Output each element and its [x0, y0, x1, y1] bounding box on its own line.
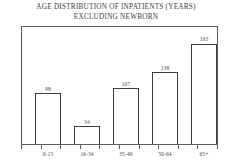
x-tick-9	[197, 145, 198, 149]
bar-slot-3: 138	[152, 27, 178, 144]
chart-title-line-2: EXCLUDING NEWBORN	[0, 12, 232, 22]
x-tick-1	[41, 145, 42, 149]
x-tick-8	[178, 145, 179, 149]
bar-slot-0: 98	[35, 27, 61, 144]
x-category-label-2: 35-49	[119, 151, 133, 157]
x-axis-ticks	[21, 145, 218, 150]
x-tick-5	[119, 145, 120, 149]
bar-0	[35, 93, 61, 144]
x-tick-10	[217, 145, 218, 149]
x-tick-7	[158, 145, 159, 149]
bar-4	[191, 44, 217, 144]
x-category-label-3: 50-64	[158, 151, 172, 157]
bar-slot-4: 193	[191, 27, 217, 144]
bar-value-label-2: 107	[122, 81, 131, 87]
bars-container: 98 34 107 138 193	[22, 27, 217, 144]
bar-value-label-3: 138	[161, 65, 170, 71]
x-tick-0	[21, 145, 22, 149]
bar-slot-1: 34	[74, 27, 100, 144]
x-category-label-4: 65+	[199, 151, 208, 157]
x-tick-4	[99, 145, 100, 149]
x-tick-3	[80, 145, 81, 149]
x-category-label-0: 0-15	[43, 151, 54, 157]
bar-1	[74, 126, 100, 144]
bar-chart-figure: AGE DISTRIBUTION OF INPATIENTS (YEARS) E…	[0, 0, 232, 166]
x-axis-category-labels: 0-15 16-34 35-49 50-64 65+	[21, 151, 218, 163]
bar-slot-2: 107	[113, 27, 139, 144]
chart-title: AGE DISTRIBUTION OF INPATIENTS (YEARS) E…	[0, 2, 232, 22]
bar-2	[113, 88, 139, 144]
bar-value-label-0: 98	[45, 86, 51, 92]
bar-value-label-1: 34	[84, 119, 90, 125]
bar-3	[152, 72, 178, 144]
x-tick-6	[139, 145, 140, 149]
chart-title-line-1: AGE DISTRIBUTION OF INPATIENTS (YEARS)	[0, 2, 232, 12]
x-category-label-1: 16-34	[80, 151, 94, 157]
bar-value-label-4: 193	[200, 36, 209, 42]
x-tick-2	[60, 145, 61, 149]
